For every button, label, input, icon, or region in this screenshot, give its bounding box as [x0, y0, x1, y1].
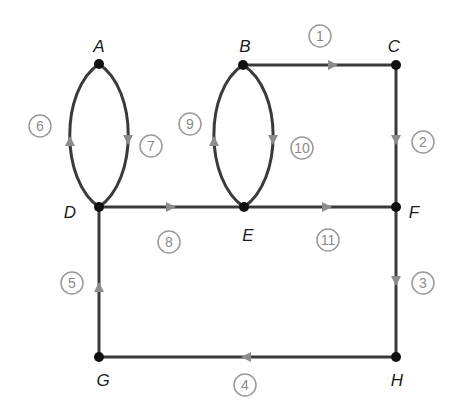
node-label-b: B	[239, 37, 250, 56]
node-label-a: A	[92, 37, 104, 56]
edge-number-text: 1	[316, 28, 324, 44]
edge-number-text: 3	[419, 275, 427, 291]
arrow-edge-6-icon	[65, 136, 75, 146]
node-label-c: C	[388, 37, 401, 56]
edge-number-10: 10	[291, 137, 313, 159]
arrow-edge-1-icon	[328, 60, 338, 70]
edge-number-7: 7	[140, 135, 162, 157]
edge-number-text: 11	[321, 232, 336, 248]
arrow-edge-2-icon	[391, 135, 401, 145]
arrow-edge-9-icon	[209, 136, 219, 146]
edge-number-text: 6	[36, 118, 44, 134]
edge-number-text: 9	[186, 116, 194, 132]
edge-number-text: 7	[147, 138, 155, 154]
edge-number-3: 3	[412, 272, 434, 294]
node-d	[94, 202, 104, 212]
arrow-edge-5-icon	[94, 282, 104, 292]
edge-number-text: 2	[419, 134, 427, 150]
edge-6-D-A	[70, 64, 99, 207]
edge-number-2: 2	[412, 131, 434, 153]
node-label-h: H	[391, 371, 404, 390]
edge-number-8: 8	[158, 231, 180, 253]
edge-number-text: 10	[294, 140, 310, 156]
node-label-f: F	[409, 203, 421, 222]
edge-number-5: 5	[61, 272, 83, 294]
edge-number-text: 4	[241, 377, 249, 393]
edge-number-11: 11	[317, 229, 339, 251]
arrow-edge-10-icon	[268, 135, 278, 145]
edge-number-9: 9	[179, 113, 201, 135]
edge-number-6: 6	[29, 115, 51, 137]
edge-number-text: 5	[68, 275, 76, 291]
graph-diagram: ABCDEFGH 1234567891011	[0, 0, 455, 416]
arrow-edge-3-icon	[391, 276, 401, 286]
node-g	[94, 352, 104, 362]
arrow-edge-11-icon	[322, 202, 332, 212]
node-b	[238, 60, 248, 70]
node-label-d: D	[64, 203, 76, 222]
edge-number-text: 8	[165, 234, 173, 250]
node-h	[391, 352, 401, 362]
node-e	[239, 202, 249, 212]
node-label-e: E	[242, 226, 254, 245]
edge-number-4: 4	[234, 374, 256, 396]
node-f	[391, 202, 401, 212]
edge-9-E-B	[214, 65, 244, 207]
node-c	[391, 60, 401, 70]
arrow-edge-4-icon	[241, 352, 251, 362]
node-label-g: G	[96, 371, 109, 390]
arrow-edge-7-icon	[123, 135, 133, 145]
arrow-edge-8-icon	[166, 202, 176, 212]
node-a	[94, 59, 104, 69]
edge-number-1: 1	[309, 25, 331, 47]
